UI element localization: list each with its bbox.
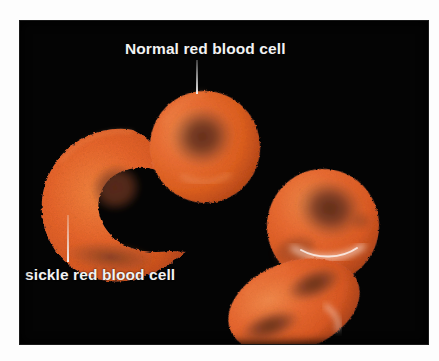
leader-line-normal-cell <box>196 60 198 94</box>
normal-cell-top <box>143 84 268 209</box>
normal-cell-right-front <box>222 254 367 344</box>
label-sickle-red-blood-cell: sickle red blood cell <box>25 266 175 283</box>
label-normal-red-blood-cell: Normal red blood cell <box>125 40 286 57</box>
normal-cell-top-shape <box>143 84 268 209</box>
normal-cell-right-front-shape <box>222 254 367 344</box>
leader-line-sickle-cell <box>67 215 69 262</box>
figure-page: Normal red blood cell sickle red blood c… <box>0 0 439 361</box>
photo-plate: Normal red blood cell sickle red blood c… <box>20 21 428 344</box>
